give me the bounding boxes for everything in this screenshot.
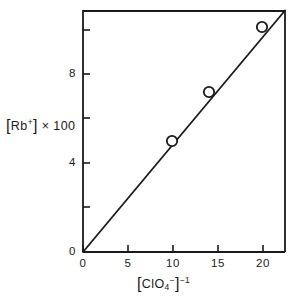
data-point-2 [204,87,214,97]
x-axis-title: [ClO4−]−1 [137,276,190,292]
x-title-exponent: −1 [180,275,190,285]
y-title-close-bracket: ] [33,117,38,134]
data-point-3 [257,22,267,32]
x-tick-label-15: 15 [211,258,225,270]
y-title-factor: 100 [53,119,75,133]
x-title-species: ClO [142,277,165,291]
y-tick-label-8: 8 [56,68,76,80]
data-point-1 [167,136,177,146]
chart-figure: 0 5 10 15 20 0 4 8 [Rb+] × 100 [ClO4−]−1 [0,0,301,304]
y-tick-label-4: 4 [56,157,76,169]
y-title-species: Rb [11,119,28,133]
y-axis-ticks [83,30,90,252]
x-tick-label-0: 0 [80,258,87,270]
y-title-operator: × [42,119,50,133]
y-tick-label-0: 0 [56,246,76,258]
x-axis-ticks [83,245,263,252]
data-markers [167,22,267,146]
fit-line [83,11,285,253]
x-tick-label-10: 10 [166,258,180,270]
x-tick-label-20: 20 [256,258,270,270]
y-axis-title: [Rb+] × 100 [6,118,75,134]
x-tick-label-5: 5 [125,258,132,270]
